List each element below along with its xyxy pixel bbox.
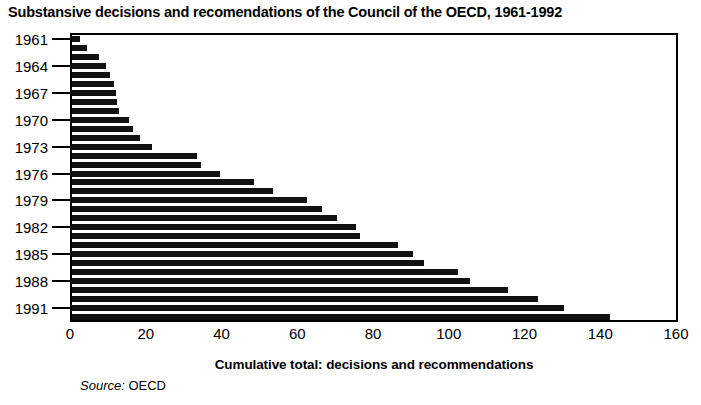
bar-1963	[72, 54, 99, 60]
bar-row	[72, 160, 678, 169]
bar-row	[72, 276, 678, 285]
x-tick-label: 0	[66, 326, 74, 341]
bar-1979	[72, 197, 307, 203]
bar-row	[72, 267, 678, 276]
bar-1977	[72, 179, 254, 185]
source-label: Source:	[80, 378, 125, 393]
bar-1973	[72, 144, 152, 150]
x-tick-label: 60	[289, 326, 306, 341]
source-note: Source: OECD	[80, 378, 166, 393]
y-tick-mark	[52, 119, 70, 121]
bar-1983	[72, 233, 360, 239]
y-tick-label: 1982	[15, 220, 48, 235]
y-tick-mark	[52, 226, 70, 228]
bar-1985	[72, 251, 413, 257]
bar-1971	[72, 126, 133, 132]
y-tick-mark	[52, 280, 70, 282]
y-tick-label: 1976	[15, 166, 48, 181]
bar-1968	[72, 99, 117, 105]
bar-1987	[72, 269, 458, 275]
bar-row	[72, 187, 678, 196]
bar-row	[72, 312, 678, 321]
bar-1980	[72, 206, 322, 212]
y-tick-mark	[52, 92, 70, 94]
bar-row	[72, 62, 678, 71]
y-tick-mark	[52, 146, 70, 148]
bar-row	[72, 115, 678, 124]
bar-1964	[72, 63, 106, 69]
bar-1992	[72, 314, 610, 320]
y-tick-label: 1988	[15, 273, 48, 288]
bars-layer	[72, 35, 678, 321]
bar-row	[72, 241, 678, 250]
bar-1982	[72, 224, 356, 230]
bar-1970	[72, 117, 129, 123]
y-tick-label: 1991	[15, 300, 48, 315]
bar-1969	[72, 108, 119, 114]
bar-1976	[72, 171, 220, 177]
bar-row	[72, 232, 678, 241]
bar-row	[72, 169, 678, 178]
bar-1966	[72, 81, 114, 87]
y-tick-label: 1973	[15, 139, 48, 154]
y-tick-label: 1970	[15, 112, 48, 127]
x-tick-label: 160	[663, 326, 688, 341]
y-axis-labels: 1961196419671970197319761979198219851988…	[0, 33, 70, 322]
y-tick-mark	[52, 253, 70, 255]
bar-1989	[72, 287, 508, 293]
bar-row	[72, 151, 678, 160]
bar-row	[72, 71, 678, 80]
y-tick-mark	[52, 199, 70, 201]
source-value: OECD	[125, 378, 166, 393]
bar-row	[72, 80, 678, 89]
bar-row	[72, 223, 678, 232]
bar-row	[72, 214, 678, 223]
bar-1978	[72, 188, 273, 194]
bar-row	[72, 35, 678, 44]
bar-1991	[72, 305, 564, 311]
y-tick-mark	[52, 38, 70, 40]
bar-1967	[72, 90, 116, 96]
y-tick-label: 1967	[15, 86, 48, 101]
bar-row	[72, 250, 678, 259]
bar-row	[72, 124, 678, 133]
bar-row	[72, 196, 678, 205]
chart-figure: Substansive decisions and recomendations…	[0, 0, 701, 405]
bar-1961	[72, 36, 80, 42]
bar-row	[72, 294, 678, 303]
bar-1965	[72, 72, 110, 78]
y-tick-mark	[52, 307, 70, 309]
bar-row	[72, 44, 678, 53]
bar-1986	[72, 260, 424, 266]
bar-1975	[72, 162, 201, 168]
bar-row	[72, 303, 678, 312]
bar-1974	[72, 153, 197, 159]
x-tick-label: 100	[436, 326, 461, 341]
bar-row	[72, 107, 678, 116]
x-tick-label: 20	[137, 326, 154, 341]
bar-row	[72, 142, 678, 151]
x-tick-label: 140	[588, 326, 613, 341]
y-tick-mark	[52, 173, 70, 175]
bar-1988	[72, 278, 470, 284]
x-axis-labels: 020406080100120140160	[0, 326, 701, 350]
bar-1981	[72, 215, 337, 221]
bar-row	[72, 258, 678, 267]
y-tick-mark	[52, 65, 70, 67]
bar-row	[72, 98, 678, 107]
bar-row	[72, 89, 678, 98]
bar-1972	[72, 135, 140, 141]
bar-1984	[72, 242, 398, 248]
y-tick-label: 1961	[15, 32, 48, 47]
bar-1962	[72, 45, 87, 51]
bar-row	[72, 53, 678, 62]
x-axis-title: Cumulative total: decisions and recommen…	[70, 357, 678, 372]
chart-title: Substansive decisions and recomendations…	[8, 4, 562, 20]
bar-row	[72, 285, 678, 294]
y-tick-label: 1964	[15, 59, 48, 74]
y-tick-label: 1979	[15, 193, 48, 208]
bar-row	[72, 205, 678, 214]
bar-row	[72, 178, 678, 187]
x-tick-label: 120	[512, 326, 537, 341]
bar-row	[72, 133, 678, 142]
